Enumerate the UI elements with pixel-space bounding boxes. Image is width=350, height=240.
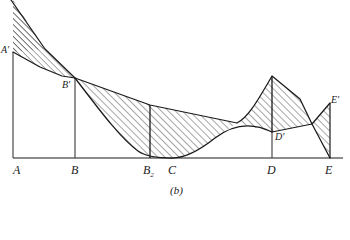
- hatched-region-e-triangle: [312, 103, 330, 158]
- axis-label-B2: B2: [143, 164, 154, 179]
- axis-label-E: E: [325, 164, 332, 176]
- point-label-A-prime: A′: [1, 45, 9, 55]
- point-label-E-prime: E′: [331, 95, 339, 105]
- figure-caption: (b): [170, 185, 183, 196]
- axis-label-C: C: [168, 164, 176, 176]
- point-label-D-prime: D′: [275, 132, 284, 142]
- point-label-B-prime: B′: [62, 80, 70, 90]
- axis-label-B2-subscript: 2: [150, 171, 154, 179]
- hatched-region-d-right: [272, 76, 312, 132]
- axis-label-D: D: [267, 164, 276, 176]
- axis-label-B: B: [71, 164, 78, 176]
- axis-label-A: A: [13, 164, 20, 176]
